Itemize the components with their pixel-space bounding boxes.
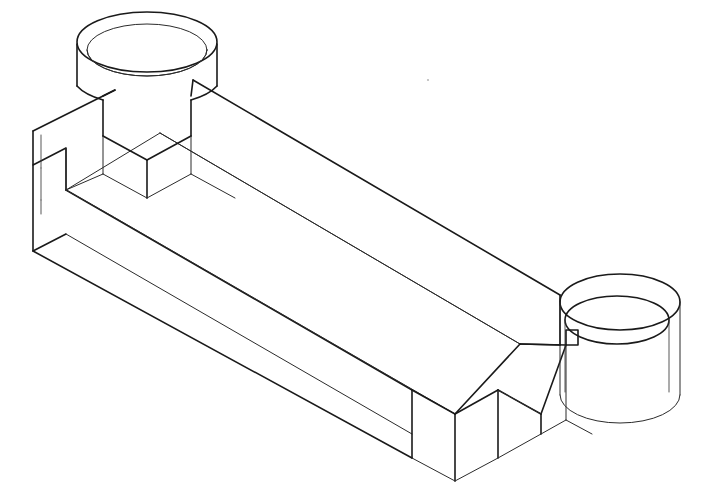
body-bottom-left-corner xyxy=(33,234,66,251)
boss-top-outer-ellipse xyxy=(77,12,217,72)
collar-bore-inner-ellipse xyxy=(565,296,669,344)
boss-pad-chevron-top-right xyxy=(147,136,191,160)
boss-to-wall-right-join xyxy=(191,80,193,96)
right-notch-bottom-far xyxy=(498,434,541,458)
right-notch-riser-a xyxy=(455,390,498,414)
right-notch-top-edge-a xyxy=(412,390,455,414)
body-outer-bottom-long-edge xyxy=(33,251,412,458)
channel-floor-right-end xyxy=(455,344,520,414)
right-notch-bottom-left xyxy=(412,458,455,481)
boss-pad-floor-right xyxy=(191,174,235,198)
back-wall-top-outer-edge-right xyxy=(193,80,560,295)
channel-floor-far-edge xyxy=(160,133,520,344)
collar-junction-lead-in xyxy=(520,344,566,345)
speck-artifact xyxy=(427,79,429,81)
boss-to-wall-left-join xyxy=(103,90,115,96)
drawing-canvas xyxy=(0,0,711,501)
boss-pad-lower-right-edge xyxy=(147,174,191,198)
boss-outer-bottom-arc-right xyxy=(191,86,217,100)
main-channel-body xyxy=(33,80,560,458)
right-notch-bottom-right xyxy=(455,458,498,481)
channel-right-inner-face xyxy=(498,390,541,414)
channel-inner-wall-left xyxy=(66,190,112,216)
front-wall-top-outer-edge xyxy=(66,190,412,390)
boss-pad-floor-left xyxy=(66,174,103,190)
channel-floor-near-edge xyxy=(112,216,455,414)
left-cylindrical-boss xyxy=(66,12,235,198)
front-wall-bottom-long-edge xyxy=(66,234,412,434)
right-cylindrical-collar xyxy=(520,274,680,434)
right-end-step-notch xyxy=(412,345,566,481)
collar-skirt-bottom-edge xyxy=(566,420,592,434)
isometric-part-drawing xyxy=(0,0,711,501)
collar-outer-bottom-arc xyxy=(560,395,680,423)
boss-pad-lower-left-edge xyxy=(103,174,147,198)
left-step-notch-outline xyxy=(33,131,66,190)
right-end-bottom-to-collar xyxy=(541,420,566,434)
boss-pad-chevron-top-left xyxy=(103,136,147,160)
collar-top-outer-ellipse xyxy=(560,274,680,330)
